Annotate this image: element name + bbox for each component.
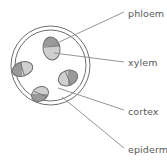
xylem-region-top [38, 47, 66, 67]
leader-line-epidermis [62, 97, 124, 148]
label-xylem: xylem [128, 57, 157, 68]
vascular-bundle-right [56, 67, 82, 88]
phloem-region-bottom [30, 94, 52, 104]
label-phloem: phloem [128, 8, 164, 19]
stem-cross-section-diagram: phloem xylem cortex epidermis [0, 0, 167, 164]
xylem-region-left [22, 60, 36, 80]
vascular-bundle-left [10, 59, 36, 80]
vascular-bundle-bottom [29, 83, 52, 104]
label-cortex: cortex [128, 106, 159, 117]
phloem-region-top [38, 34, 66, 47]
label-epidermis: epidermis [128, 144, 167, 155]
leader-line-phloem [55, 12, 124, 44]
vascular-bundle-top [38, 34, 66, 67]
diagram-canvas [0, 0, 167, 164]
leader-line-cortex [58, 88, 124, 110]
leader-line-xylem [54, 53, 124, 62]
